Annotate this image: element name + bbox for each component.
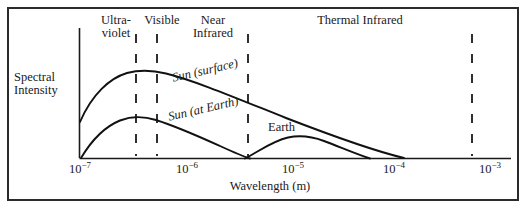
spectral-intensity-figure: Ultra- violet Visible Near Infrared Ther… xyxy=(0,0,528,210)
curve-earth xyxy=(245,136,370,158)
x-tick-1e-3-mantissa: 10 xyxy=(479,162,492,176)
band-label-thermal-infrared: Thermal Infrared xyxy=(300,14,420,27)
x-tick-1e-6-exponent: −6 xyxy=(188,160,198,170)
curve-sun-at-earth xyxy=(81,117,250,158)
band-label-ultraviolet-line2: violet xyxy=(88,27,144,40)
x-tick-1e-5-exponent: −5 xyxy=(294,160,304,170)
x-tick-1e-4-mantissa: 10 xyxy=(383,162,396,176)
x-axis-title: Wavelength (m) xyxy=(205,180,335,193)
band-label-near-infrared-line2: Infrared xyxy=(180,27,246,40)
y-axis-title: Spectral Intensity xyxy=(14,71,78,97)
x-tick-1e-6: 10−6 xyxy=(167,161,207,176)
x-tick-1e-7: 10−7 xyxy=(60,161,100,176)
x-tick-1e-3-exponent: −3 xyxy=(491,160,501,170)
x-tick-1e-3: 10−3 xyxy=(470,161,510,176)
x-tick-1e-7-mantissa: 10 xyxy=(69,162,82,176)
curve-sun-surface xyxy=(80,71,404,158)
x-tick-1e-7-exponent: −7 xyxy=(81,160,91,170)
earth-label: Earth xyxy=(268,121,295,134)
x-tick-1e-4-exponent: −4 xyxy=(395,160,405,170)
x-tick-1e-4: 10−4 xyxy=(374,161,414,176)
x-tick-1e-6-mantissa: 10 xyxy=(176,162,189,176)
x-tick-1e-5-mantissa: 10 xyxy=(282,162,295,176)
band-label-thermal-infrared-line1: Thermal Infrared xyxy=(300,14,420,27)
y-axis-title-line2: Intensity xyxy=(14,84,78,97)
x-tick-1e-5: 10−5 xyxy=(273,161,313,176)
band-label-near-infrared: Near Infrared xyxy=(180,14,246,40)
